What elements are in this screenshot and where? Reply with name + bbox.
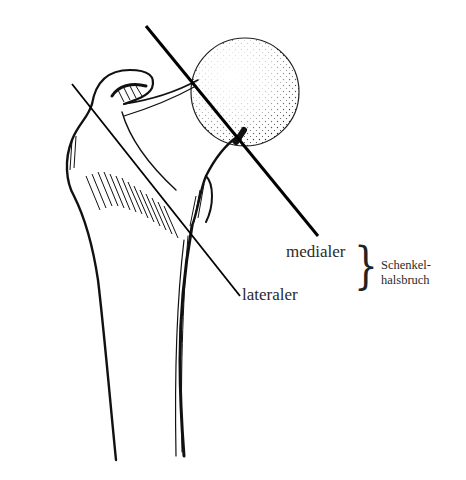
curly-brace: }: [354, 241, 378, 291]
femur-illustration: [0, 0, 466, 480]
label-medial: medialer: [286, 242, 345, 262]
label-group-line1: Schenkel-: [381, 258, 431, 273]
label-group-line2: halsbruch: [381, 273, 431, 288]
label-lateral: lateraler: [242, 285, 298, 305]
label-schenkelhalsbruch: Schenkel- halsbruch: [381, 258, 431, 288]
